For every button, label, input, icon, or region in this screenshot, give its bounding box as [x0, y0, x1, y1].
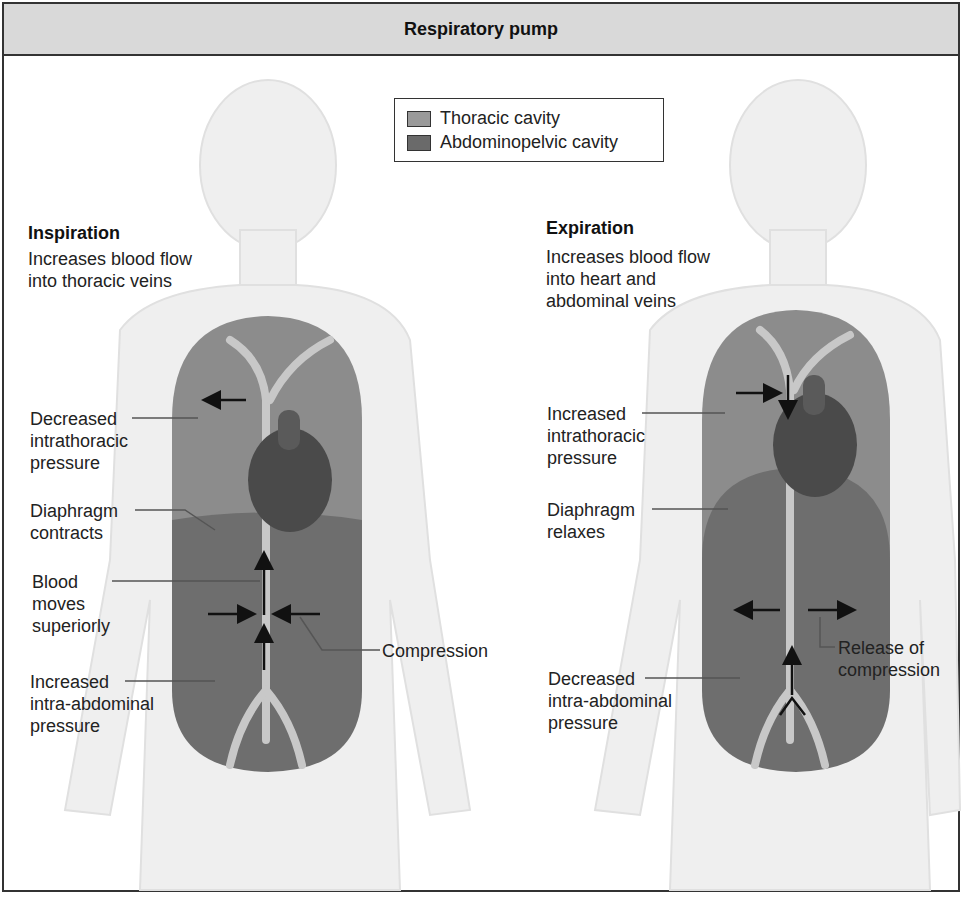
label-compression: Compression: [382, 640, 488, 662]
legend-item-abdominopelvic: Abdominopelvic cavity: [407, 132, 618, 153]
label-release-of-compression: Release of compression: [838, 637, 940, 681]
inspiration-heading: Inspiration: [28, 223, 120, 244]
label-diaphragm-relaxes: Diaphragm relaxes: [547, 499, 635, 543]
label-decreased-intra-abdominal: Decreased intra-abdominal pressure: [548, 668, 672, 734]
label-blood-moves: Blood moves superiorly: [32, 571, 110, 637]
expiration-description: Increases blood flow into heart and abdo…: [546, 246, 726, 312]
legend: Thoracic cavity Abdominopelvic cavity: [394, 98, 664, 162]
right-abdominal-cavity: [702, 468, 890, 772]
label-increased-intra-abdominal: Increased intra-abdominal pressure: [30, 671, 154, 737]
label-increased-intrathoracic: Increased intrathoracic pressure: [547, 403, 645, 469]
legend-item-thoracic: Thoracic cavity: [407, 108, 560, 129]
label-diaphragm-contracts: Diaphragm contracts: [30, 500, 118, 544]
label-decreased-intrathoracic: Decreased intrathoracic pressure: [30, 408, 128, 474]
inspiration-description: Increases blood flow into thoracic veins: [28, 248, 198, 292]
thoracic-swatch-icon: [407, 111, 431, 127]
expiration-heading: Expiration: [546, 218, 634, 239]
abdominopelvic-swatch-icon: [407, 135, 431, 151]
